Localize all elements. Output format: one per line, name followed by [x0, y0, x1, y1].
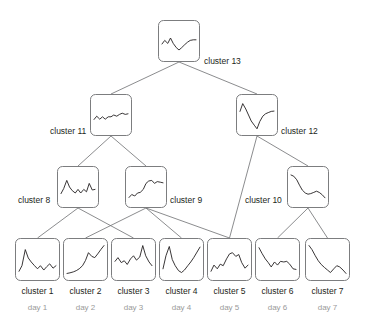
node-box: [306, 239, 350, 281]
dendrogram-edge: [146, 208, 230, 238]
edges-layer: [38, 62, 328, 238]
node-cluster12[interactable]: [237, 95, 278, 136]
day-label-cluster7: day 7: [298, 304, 358, 312]
dendrogram-edge: [278, 208, 309, 238]
node-box: [160, 239, 204, 281]
dendrogram-edge: [111, 136, 146, 166]
node-box: [288, 167, 329, 208]
node-box: [91, 95, 132, 136]
node-label-cluster13: cluster 13: [204, 57, 241, 66]
node-cluster4[interactable]: [160, 239, 204, 281]
dendrogram-edge: [146, 208, 182, 238]
dendrogram-edge: [38, 208, 79, 238]
node-cluster7[interactable]: [306, 239, 350, 281]
dendrogram-edge: [179, 62, 257, 94]
node-cluster3[interactable]: [112, 239, 156, 281]
node-box: [208, 239, 252, 281]
node-label-cluster12: cluster 12: [281, 127, 318, 136]
node-box: [16, 239, 60, 281]
node-cluster1[interactable]: [16, 239, 60, 281]
node-cluster13[interactable]: [159, 21, 200, 62]
dendrogram-edge: [78, 208, 134, 238]
node-cluster8[interactable]: [58, 167, 99, 208]
dendrogram-edge: [86, 208, 147, 238]
node-cluster5[interactable]: [208, 239, 252, 281]
node-box: [112, 239, 156, 281]
node-label-cluster11: cluster 11: [50, 127, 86, 136]
node-cluster11[interactable]: [91, 95, 132, 136]
node-label-cluster8: cluster 8: [18, 196, 50, 205]
node-box: [256, 239, 300, 281]
dendrogram-edge: [111, 62, 179, 94]
node-box: [237, 95, 278, 136]
node-label-cluster10: cluster 10: [245, 196, 282, 205]
node-cluster2[interactable]: [64, 239, 108, 281]
node-box: [58, 167, 99, 208]
dendrogram-edge: [308, 208, 328, 238]
node-cluster6[interactable]: [256, 239, 300, 281]
dendrogram-edge: [78, 136, 111, 166]
dendrogram-edge: [230, 136, 258, 238]
node-cluster10[interactable]: [288, 167, 329, 208]
node-boxes-layer: [16, 21, 350, 281]
dendrogram-canvas: [0, 0, 370, 329]
node-cluster9[interactable]: [126, 167, 167, 208]
node-label-cluster9: cluster 9: [170, 196, 202, 205]
node-label-cluster7: cluster 7: [298, 287, 358, 296]
node-box: [126, 167, 167, 208]
dendrogram-edge: [257, 136, 308, 166]
